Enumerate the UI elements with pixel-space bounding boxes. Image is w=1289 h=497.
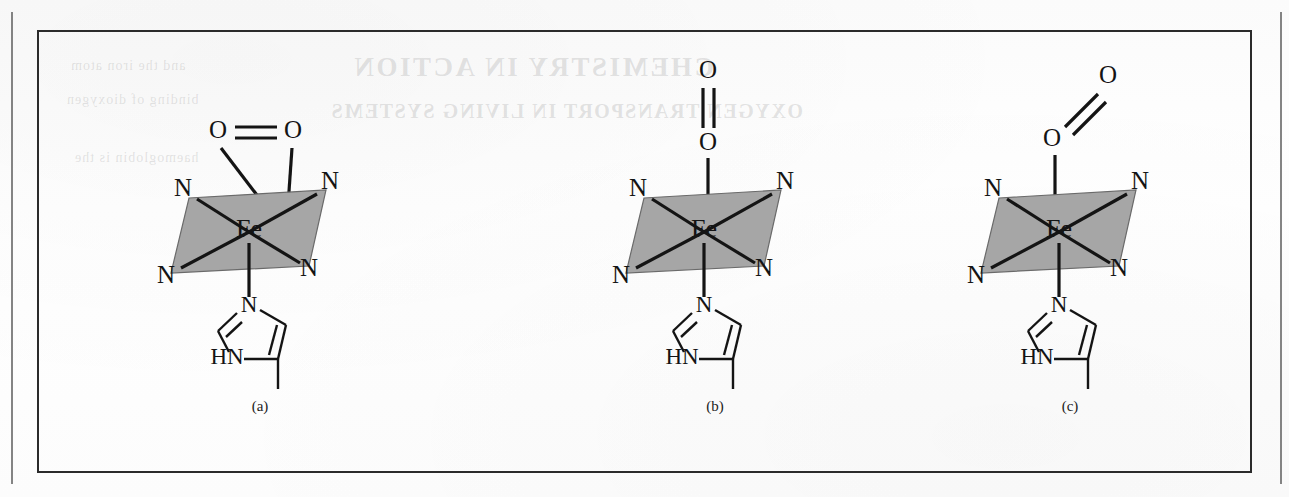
nitrogen-label-c-2: N	[1131, 167, 1149, 194]
nitrogen-label-c-3: N	[967, 261, 985, 288]
nitrogen-label-a-3: N	[157, 261, 175, 288]
caption-c: (c)	[855, 398, 1285, 415]
structure-a: O O Fe N N	[45, 0, 475, 443]
structure-a-diagram: O O Fe N N	[45, 0, 475, 410]
caption-a: (a)	[45, 398, 475, 415]
figure-page: CHEMISTRY IN ACTION OXYGEN TRANSPORT IN …	[0, 0, 1289, 497]
structure-c: O O Fe N N N N N	[855, 0, 1285, 443]
metal-label-c: Fe	[1046, 214, 1072, 243]
nitrogen-label-a-4: N	[300, 254, 318, 281]
oo-double-bond-a	[235, 127, 277, 138]
imidazole-n-label-a: N	[241, 292, 258, 317]
oxygen-label-c-bottom: O	[1043, 124, 1061, 151]
nitrogen-label-a-1: N	[174, 174, 192, 201]
imidazole-nh-label-c: HN	[1020, 344, 1054, 369]
page-edge-line-left	[11, 12, 13, 484]
imidazole-n-label-c: N	[1051, 292, 1068, 317]
nitrogen-label-b-1: N	[629, 174, 647, 201]
nitrogen-label-b-2: N	[776, 167, 794, 194]
metal-label-a: Fe	[236, 214, 262, 243]
oxygen-label-a-right: O	[284, 116, 302, 143]
oo-double-bond-c	[1065, 94, 1106, 135]
imidazole-nh-label-b: HN	[665, 344, 699, 369]
oxygen-label-b-top: O	[699, 56, 717, 83]
structure-c-diagram: O O Fe N N N N N	[855, 0, 1285, 410]
imidazole-nh-label-a: HN	[210, 344, 244, 369]
nitrogen-label-c-4: N	[1110, 254, 1128, 281]
nitrogen-label-b-3: N	[612, 261, 630, 288]
nitrogen-label-a-2: N	[321, 167, 339, 194]
oo-double-bond-b	[703, 88, 714, 128]
nitrogen-label-b-4: N	[755, 254, 773, 281]
oxygen-label-c-top: O	[1099, 61, 1117, 88]
imidazole-n-label-b: N	[696, 292, 713, 317]
oxygen-label-a-left: O	[209, 116, 227, 143]
metal-label-b: Fe	[691, 214, 717, 243]
oxygen-label-b-bottom: O	[699, 128, 717, 155]
nitrogen-label-c-1: N	[984, 174, 1002, 201]
